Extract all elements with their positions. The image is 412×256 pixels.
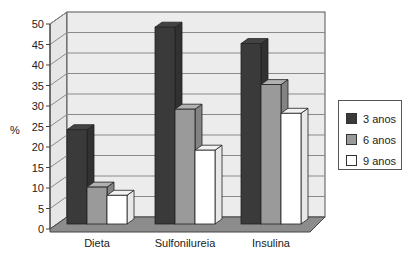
bar-side: [127, 190, 134, 224]
legend-swatch-3-anos: [346, 113, 357, 124]
bar-9-anos-insulina: [281, 113, 301, 224]
x-tick-label: Insulina: [252, 237, 291, 249]
y-tick-label: 10: [32, 182, 44, 194]
y-tick-label: 5: [38, 203, 44, 215]
bar-6-anos-sulfonilureia: [175, 109, 195, 224]
y-tick-label: 40: [32, 59, 44, 71]
y-tick-label: 20: [32, 141, 44, 153]
y-tick-label: 45: [32, 39, 44, 51]
bar-3-anos-sulfonilureia: [155, 27, 175, 224]
legend-swatch-9-anos: [346, 155, 357, 166]
bar-side: [215, 145, 222, 224]
y-tick-label: 35: [32, 80, 44, 92]
legend-item-6-anos: 6 anos: [346, 129, 401, 150]
y-tick-label: 0: [38, 223, 44, 235]
x-tick-label: Sulfonilureia: [155, 237, 216, 249]
legend-item-9-anos: 9 anos: [346, 150, 401, 171]
chart-legend: 3 anos 6 anos 9 anos: [338, 100, 402, 170]
y-tick-label: 30: [32, 100, 44, 112]
bar-9-anos-dieta: [107, 195, 127, 224]
legend-swatch-6-anos: [346, 134, 357, 145]
bar-9-anos-sulfonilureia: [195, 150, 215, 224]
bar-6-anos-dieta: [87, 187, 107, 224]
y-axis-label: %: [10, 124, 20, 136]
bar-3-anos-insulina: [241, 44, 261, 224]
bar-side: [301, 108, 308, 224]
x-tick-label: Dieta: [84, 237, 111, 249]
y-tick-label: 25: [32, 121, 44, 133]
y-tick-label: 15: [32, 162, 44, 174]
legend-item-3-anos: 3 anos: [346, 108, 401, 129]
legend-label: 6 anos: [363, 134, 396, 146]
y-tick-label: 50: [32, 18, 44, 30]
legend-label: 9 anos: [363, 155, 396, 167]
bar-3-anos-dieta: [67, 130, 87, 224]
bar-6-anos-insulina: [261, 85, 281, 224]
legend-label: 3 anos: [363, 113, 396, 125]
